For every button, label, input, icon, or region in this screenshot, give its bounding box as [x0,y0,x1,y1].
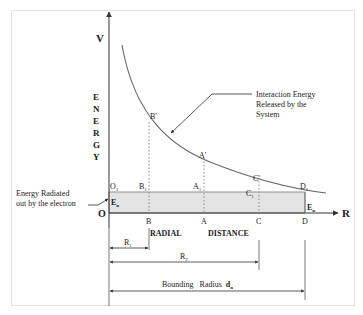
svg-text:E: E [93,92,99,102]
radiated-annotation: Energy Radiated out by the electron [16,189,76,208]
curve-annotation: Interaction Energy Released by the Syste… [256,90,316,119]
x-axis-symbol: R [342,207,351,219]
point-c: C [256,217,261,226]
distance-label: DISTANCE [208,229,249,238]
svg-text:G: G [93,140,100,150]
svg-text:System: System [256,110,280,119]
radiated-annotation-leader [88,199,108,205]
point-a-prime: A' [199,151,207,160]
point-b1: B1 [139,182,147,192]
r2-label: R2 [180,252,188,262]
curve-annotation-leader [171,94,252,133]
svg-text:Energy Radiated: Energy Radiated [16,189,69,198]
radial-label: RADIAL [150,229,182,238]
svg-text:out by the electron: out by the electron [16,199,76,208]
point-c-prime: C' [253,174,260,183]
point-d: D [302,217,308,226]
en-right-label: En [307,203,315,213]
point-b: B [146,217,151,226]
energy-radial-diagram: V E N E R G Y R O RADIAL DISTANCE Intera… [0,0,363,315]
origin-label: O [98,208,106,219]
point-d1: D1 [300,182,309,192]
r1-label: R1 [124,238,132,248]
svg-text:Y: Y [93,152,100,162]
svg-text:Interaction Energy: Interaction Energy [256,90,316,99]
bounding-radius-label: Bounding Radiusdn [162,280,233,290]
point-c1: C1 [246,189,254,199]
radiated-energy-band [109,192,305,213]
point-b-prime: B' [150,112,157,121]
point-a: A [201,217,207,226]
svg-text:E: E [93,116,99,126]
point-a1: A1 [193,182,202,192]
svg-text:Released by the: Released by the [256,100,307,109]
energy-label: E N E R G Y [93,92,100,162]
svg-text:N: N [93,104,100,114]
svg-text:R: R [93,128,100,138]
y-axis-symbol: V [96,32,104,44]
point-o1: O1 [110,182,119,192]
